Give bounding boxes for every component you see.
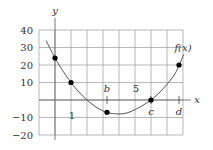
x-axis-title: x	[194, 94, 200, 105]
axis-marker-label: d	[176, 106, 182, 117]
curve-label: f(x)	[173, 42, 191, 53]
axes	[39, 18, 191, 140]
y-tick-label: −10	[12, 112, 33, 123]
axis-marker-label: c	[148, 106, 154, 117]
axis-marker-label: b	[104, 83, 110, 94]
function-curve	[46, 41, 184, 115]
x-tick-label: 5	[133, 83, 139, 94]
y-tick-label: 30	[20, 42, 33, 53]
marked-points	[52, 55, 181, 114]
data-point	[68, 80, 73, 85]
data-point	[52, 55, 57, 60]
x-tick-label: 1	[69, 110, 75, 121]
axis-labels: 40302010−10−2015bcdyxf(x)	[12, 5, 200, 141]
grid	[39, 30, 183, 135]
data-point	[148, 97, 153, 102]
data-point	[176, 62, 181, 67]
y-tick-label: 40	[20, 25, 33, 36]
y-tick-label: −20	[12, 130, 33, 141]
y-tick-label: 10	[20, 77, 33, 88]
data-point	[104, 110, 109, 115]
y-tick-label: 20	[20, 60, 33, 71]
y-axis-title: y	[51, 5, 58, 16]
function-plot: 40302010−10−2015bcdyxf(x)	[0, 0, 213, 150]
